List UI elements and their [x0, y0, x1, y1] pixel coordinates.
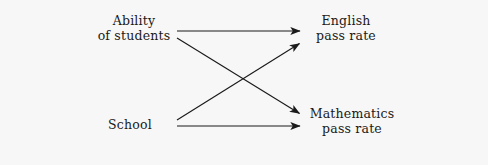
node-school: School: [92, 117, 168, 132]
diagram-canvas: Ability of students School English pass …: [0, 0, 488, 165]
arrow-layer: [0, 0, 488, 165]
node-school-line-1: School: [92, 117, 168, 132]
node-english-pass-rate: English pass rate: [296, 13, 396, 43]
node-english-line-1: English: [296, 13, 396, 28]
node-ability-of-students: Ability of students: [86, 13, 182, 43]
edge-ability-to-mathematics: [177, 38, 300, 114]
node-mathematics-line-1: Mathematics: [296, 106, 408, 121]
node-english-line-2: pass rate: [296, 28, 396, 43]
node-ability-line-1: Ability: [86, 13, 182, 28]
node-ability-line-2: of students: [86, 28, 182, 43]
node-mathematics-line-2: pass rate: [296, 121, 408, 136]
edge-school-to-english: [177, 44, 300, 121]
node-mathematics-pass-rate: Mathematics pass rate: [296, 106, 408, 136]
